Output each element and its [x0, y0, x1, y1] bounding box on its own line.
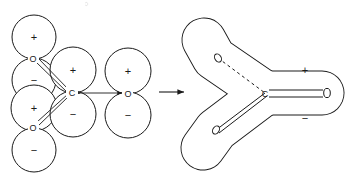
- charge-sign-4: −: [31, 144, 37, 156]
- diagram-svg: O O C O + − + − + − + −: [0, 0, 348, 185]
- right-panel: C + −: [203, 40, 330, 148]
- charge-sign-7: +: [125, 65, 131, 77]
- charge-sign-2: −: [31, 74, 37, 86]
- diagram-canvas: O O C O + − + − + − + −: [0, 0, 348, 185]
- atom-label-o-top-left: O: [29, 54, 36, 64]
- atom-label-o-bottom-left: O: [29, 123, 36, 133]
- left-panel: O O C O + − + − + − + −: [11, 15, 151, 172]
- merged-minus-sign: −: [302, 112, 308, 124]
- charge-sign-1: +: [31, 31, 37, 43]
- charge-sign-8: −: [125, 109, 131, 121]
- atom-label-o-right: O: [124, 89, 131, 99]
- atom-label-c-center: C: [69, 88, 76, 98]
- charge-sign-5: +: [70, 64, 76, 76]
- junction-label-group: C: [262, 89, 269, 99]
- scan-artifact: [85, 2, 88, 6]
- marker-o-right: [324, 88, 331, 97]
- merged-plus-sign: +: [302, 64, 308, 76]
- charge-sign-3: +: [31, 102, 37, 114]
- atom-label-c-merged: C: [262, 89, 269, 99]
- charge-sign-6: −: [70, 108, 76, 120]
